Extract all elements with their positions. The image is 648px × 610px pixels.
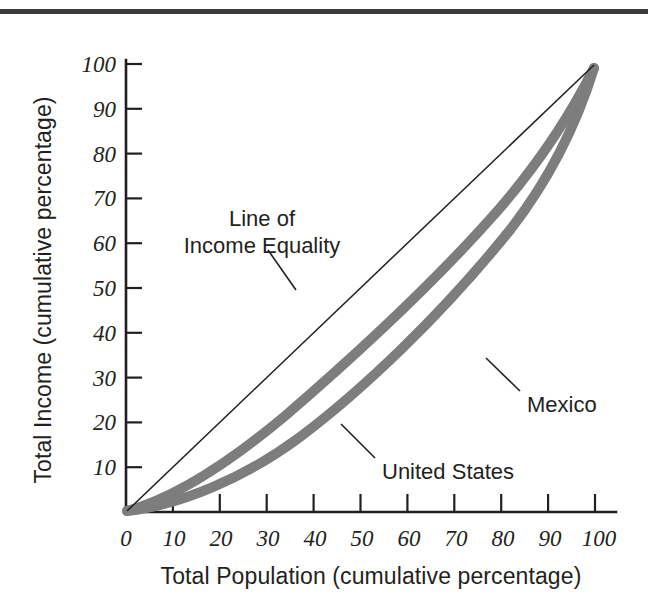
- x-tick-label-10: 10: [163, 526, 187, 551]
- y-tick-label-50: 50: [93, 276, 117, 301]
- x-tick-label-70: 70: [445, 526, 469, 551]
- lorenz-curve-figure: 100 90 80 70 60 50 40 30 20 10 0 10 20 3…: [0, 0, 648, 610]
- annotation-mexico: Mexico: [527, 392, 597, 417]
- annotation-income-equality-line1: Line of: [229, 206, 296, 231]
- y-tick-label-70: 70: [93, 186, 117, 211]
- y-tick-label-40: 40: [93, 321, 117, 346]
- chart-canvas: 100 90 80 70 60 50 40 30 20 10 0 10 20 3…: [0, 0, 648, 610]
- y-axis-tick-labels: 100 90 80 70 60 50 40 30 20 10: [82, 52, 117, 480]
- y-axis-title: Total Income (cumulative percentage): [30, 96, 56, 483]
- axes: [126, 60, 616, 512]
- y-tick-label-30: 30: [92, 366, 117, 391]
- x-tick-label-100: 100: [582, 526, 617, 551]
- y-tick-label-60: 60: [93, 231, 117, 256]
- x-tick-label-80: 80: [492, 526, 516, 551]
- y-tick-label-20: 20: [93, 410, 117, 435]
- x-tick-label-20: 20: [210, 526, 234, 551]
- x-tick-label-50: 50: [351, 526, 375, 551]
- y-tick-label-80: 80: [93, 142, 117, 167]
- x-axis-title: Total Population (cumulative percentage): [161, 563, 582, 589]
- x-tick-label-90: 90: [539, 526, 563, 551]
- y-tick-label-90: 90: [93, 97, 117, 122]
- x-axis-ticks: [173, 494, 595, 512]
- x-axis-tick-labels: 0 10 20 30 40 50 60 70 80 90 100: [120, 526, 617, 551]
- x-tick-label-40: 40: [304, 526, 328, 551]
- y-axis-ticks: [126, 64, 142, 467]
- y-tick-label-100: 100: [82, 52, 117, 77]
- x-tick-label-30: 30: [256, 526, 281, 551]
- annotation-income-equality-line2: Income Equality: [184, 233, 341, 258]
- leader-line-mexico: [486, 358, 520, 391]
- x-tick-label-60: 60: [398, 526, 422, 551]
- y-tick-label-10: 10: [93, 455, 117, 480]
- leader-line-united-states: [341, 424, 375, 458]
- x-tick-label-0: 0: [120, 526, 132, 551]
- annotation-united-states: United States: [382, 459, 514, 484]
